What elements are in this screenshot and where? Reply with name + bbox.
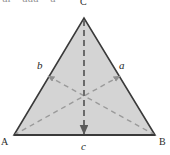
crop-fragment-1: ui — [2, 0, 11, 4]
cevian-label-b: b — [37, 60, 43, 71]
cropped-text-above: ui uuu u — [0, 0, 62, 7]
cevian-label-a: a — [119, 60, 125, 71]
triangle-diagram-canvas — [0, 0, 170, 155]
crop-fragment-2: uuu — [22, 0, 39, 4]
cevian-label-c: c — [81, 141, 86, 152]
vertex-label-a: A — [1, 137, 8, 147]
geometry-figure: ui uuu u C A B a b c — [0, 0, 170, 155]
vertex-label-b: B — [159, 137, 166, 147]
vertex-label-c: C — [80, 0, 87, 7]
crop-fragment-3: u — [50, 0, 56, 4]
